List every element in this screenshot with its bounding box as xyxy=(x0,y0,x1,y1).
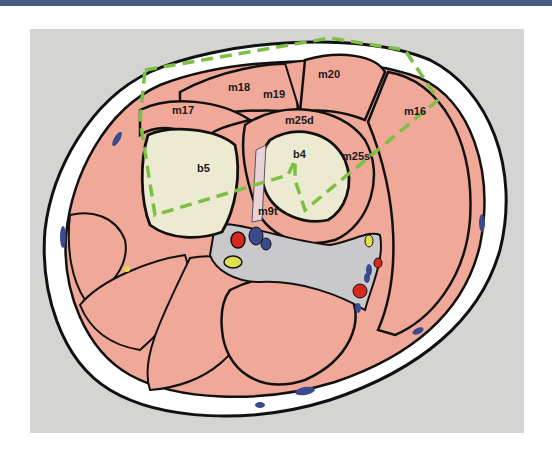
bone-b5 xyxy=(142,129,238,237)
label-m17: m17 xyxy=(172,104,194,116)
vein-icon xyxy=(355,303,361,313)
skin-vein-icon xyxy=(479,214,485,232)
nerve-icon xyxy=(365,235,373,247)
label-m16: m16 xyxy=(404,105,426,117)
label-m25s: m25s xyxy=(342,150,370,162)
nerve-icon xyxy=(124,266,130,272)
label-m18: m18 xyxy=(228,81,250,93)
vein-icon xyxy=(364,273,370,283)
artery-icon xyxy=(353,284,367,298)
skin-vein-icon xyxy=(60,226,66,248)
artery-icon xyxy=(374,258,382,268)
skin-vein-icon xyxy=(255,402,265,408)
label-m20: m20 xyxy=(318,68,340,80)
label-m9t: m9t xyxy=(258,205,278,217)
cross-section-diagram: m18 m19 m20 m16 m17 m25d m25s b4 b5 m9t xyxy=(0,0,552,457)
vein-icon xyxy=(261,238,271,250)
artery-icon xyxy=(231,232,245,248)
label-b5: b5 xyxy=(197,162,210,174)
label-m19: m19 xyxy=(263,88,285,100)
label-m25d: m25d xyxy=(285,114,314,126)
label-b4: b4 xyxy=(293,148,307,160)
nerve-icon xyxy=(224,256,242,268)
